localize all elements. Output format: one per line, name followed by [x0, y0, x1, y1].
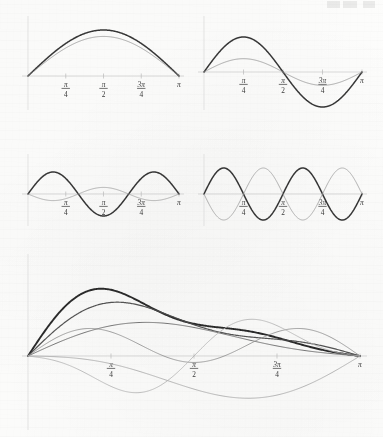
plot-panel-1: π4π23π4π	[20, 14, 185, 114]
figure-page: π4π23π4π π4π23π4π π4π23π4π π4π23π4π π4π2…	[0, 0, 383, 437]
tick-label-numerator: π	[102, 198, 106, 207]
tick-label-numerator: 3π	[137, 80, 146, 89]
tick-label-numerator: π	[281, 198, 285, 207]
tick-label-numerator: 3π	[318, 76, 327, 85]
plot-panel-2: π4π23π4π	[196, 14, 368, 114]
page-header-mark	[327, 1, 375, 8]
tick-label-denominator: 2	[192, 370, 196, 379]
tick-label-numerator: π	[102, 80, 106, 89]
tick-label-denominator: 4	[109, 370, 113, 379]
curve-partial-sum-mid	[28, 322, 360, 356]
tick-label-denominator: 4	[139, 90, 143, 99]
tick-label-denominator: 2	[102, 90, 106, 99]
tick-label-denominator: 4	[275, 370, 279, 379]
tick-label-numerator: π	[358, 360, 362, 369]
tick-label-numerator: π	[360, 198, 364, 207]
tick-label-denominator: 4	[321, 208, 325, 217]
tick-label-numerator: π	[192, 360, 196, 369]
tick-label-numerator: π	[64, 80, 68, 89]
tick-label-denominator: 4	[242, 86, 246, 95]
tick-label-denominator: 4	[242, 208, 246, 217]
tick-label-denominator: 4	[139, 208, 143, 217]
curve-partial-sum-bold	[28, 289, 360, 356]
plot-panel-4: π4π23π4π	[196, 152, 368, 230]
tick-label-denominator: 2	[281, 208, 285, 217]
tick-label-numerator: π	[242, 76, 246, 85]
tick-label-numerator: π	[177, 80, 181, 89]
tick-label-denominator: 4	[64, 208, 68, 217]
tick-label-numerator: π	[281, 76, 285, 85]
plot-panel-3: π4π23π4π	[20, 152, 185, 230]
tick-label-numerator: π	[177, 198, 181, 207]
tick-label-numerator: 3π	[272, 360, 281, 369]
tick-label-numerator: π	[360, 76, 364, 85]
tick-label-denominator: 4	[321, 86, 325, 95]
plot-panel-5: π4π23π4π	[16, 252, 368, 434]
tick-label-denominator: 2	[281, 86, 285, 95]
curve-harmonic-1-light	[28, 36, 179, 76]
curve-harmonic-1-bold	[28, 30, 179, 76]
tick-label-denominator: 4	[64, 90, 68, 99]
